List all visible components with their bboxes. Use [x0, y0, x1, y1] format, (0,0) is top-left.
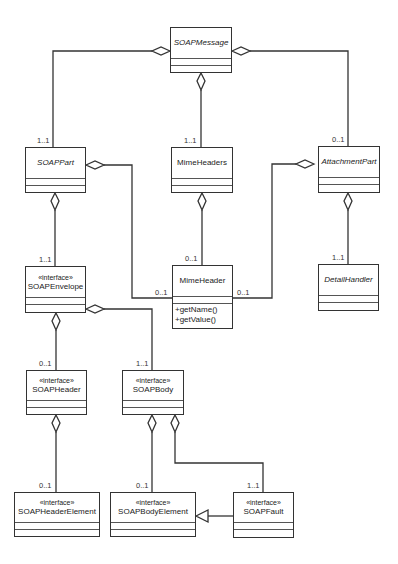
class-mime-header: MimeHeader +getName() +getValue() [172, 265, 233, 329]
multiplicity-soap-header-element: 0..1 [39, 481, 52, 490]
aggregation-diamond-icon [148, 415, 156, 432]
attributes-compartment [111, 523, 195, 530]
class-name: DetailHandler [324, 275, 372, 285]
generalization-arrow-icon [196, 510, 208, 522]
aggregation-diamond-icon [86, 161, 104, 169]
class-name: SOAPHeaderElement [18, 507, 96, 517]
multiplicity-mime-header-left: 0..1 [155, 288, 168, 297]
multiplicity-soap-part: 1..1 [37, 136, 50, 145]
class-soap-message: SOAPMessage [170, 27, 232, 73]
multiplicity-mime-header-right: 0..1 [237, 288, 250, 297]
attributes-compartment [173, 297, 232, 304]
class-name-compartment: «interface» SOAPHeader [27, 371, 86, 401]
operations-compartment: +getName() +getValue() [173, 304, 232, 326]
class-name-compartment: SOAPMessage [171, 28, 231, 59]
class-soap-envelope: «interface» SOAPEnvelope [25, 266, 86, 313]
attributes-compartment [15, 523, 99, 530]
aggregation-diamond-icon [86, 305, 104, 313]
multiplicity-soap-header: 0..1 [39, 359, 52, 368]
class-name: AttachmentPart [321, 157, 376, 167]
edge-soapmessage-attachmentpart [250, 51, 348, 146]
aggregation-diamond-icon [152, 47, 170, 55]
attributes-compartment [27, 401, 86, 408]
aggregation-diamond-icon [198, 193, 206, 210]
multiplicity-mime-headers: 1..1 [184, 136, 197, 145]
class-name-compartment: SOAPPart [26, 148, 85, 179]
class-name-compartment: DetailHandler [319, 265, 378, 296]
class-name: MimeHeaders [177, 158, 227, 168]
multiplicity-mime-header-top: 0..1 [185, 254, 198, 263]
class-name: SOAPHeader [32, 385, 80, 395]
stereotype-label: «interface» [38, 273, 73, 282]
class-name: SOAPBody [133, 385, 173, 395]
attributes-compartment [123, 401, 183, 408]
attributes-compartment [171, 59, 231, 66]
edge-soappart-mimeheader [104, 165, 172, 298]
attributes-compartment [319, 296, 378, 303]
multiplicity-attachment-part: 0..1 [332, 135, 345, 144]
class-soap-header-element: «interface» SOAPHeaderElement [14, 492, 100, 537]
multiplicity-soap-body-element: 0..1 [136, 481, 149, 490]
class-soap-body-element: «interface» SOAPBodyElement [110, 492, 196, 537]
class-name: MimeHeader [180, 276, 226, 286]
stereotype-label: «interface» [136, 376, 171, 385]
multiplicity-soap-fault: 1..1 [247, 481, 260, 490]
class-name-compartment: «interface» SOAPEnvelope [26, 267, 85, 298]
edge-soapmessage-soappart [53, 51, 152, 147]
class-soap-part: SOAPPart [25, 147, 86, 193]
operation-get-value: +getValue() [175, 315, 230, 325]
attributes-compartment [234, 523, 293, 530]
stereotype-label: «interface» [246, 498, 281, 507]
multiplicity-detail-handler: 1..1 [332, 253, 345, 262]
class-attachment-part: AttachmentPart [318, 146, 380, 193]
class-soap-body: «interface» SOAPBody [122, 370, 184, 415]
attributes-compartment [172, 179, 232, 186]
class-name-compartment: MimeHeaders [172, 148, 232, 179]
aggregation-diamond-icon [52, 415, 60, 432]
stereotype-label: «interface» [39, 376, 74, 385]
attributes-compartment [26, 298, 85, 305]
class-name-compartment: AttachmentPart [319, 147, 379, 178]
aggregation-diamond-icon [232, 47, 250, 55]
multiplicity-soap-envelope: 1..1 [39, 255, 52, 264]
stereotype-label: «interface» [136, 498, 171, 507]
class-name-compartment: MimeHeader [173, 266, 232, 297]
aggregation-diamond-icon [344, 193, 352, 210]
class-detail-handler: DetailHandler [318, 264, 379, 311]
class-mime-headers: MimeHeaders [171, 147, 233, 193]
aggregation-diamond-icon [51, 193, 59, 210]
attributes-compartment [26, 179, 85, 186]
class-name: SOAPBodyElement [118, 507, 188, 517]
edge-attachmentpart-mimeheader [233, 164, 296, 298]
class-name: SOAPFault [243, 507, 283, 517]
class-name-compartment: «interface» SOAPBody [123, 371, 183, 401]
attributes-compartment [319, 178, 379, 185]
multiplicity-soap-body: 1..1 [136, 359, 149, 368]
class-name: SOAPMessage [174, 38, 229, 48]
aggregation-diamond-icon [197, 73, 205, 90]
class-soap-header: «interface» SOAPHeader [26, 370, 87, 415]
class-soap-fault: «interface» SOAPFault [233, 492, 294, 538]
class-name-compartment: «interface» SOAPFault [234, 493, 293, 523]
class-name-compartment: «interface» SOAPHeaderElement [15, 493, 99, 523]
aggregation-diamond-icon [52, 313, 60, 330]
class-name: SOAPEnvelope [28, 282, 84, 292]
aggregation-diamond-icon [171, 415, 179, 432]
operation-get-name: +getName() [175, 305, 230, 315]
stereotype-label: «interface» [40, 498, 75, 507]
class-name-compartment: «interface» SOAPBodyElement [111, 493, 195, 523]
aggregation-diamond-icon [296, 160, 314, 168]
class-name: SOAPPart [37, 158, 74, 168]
